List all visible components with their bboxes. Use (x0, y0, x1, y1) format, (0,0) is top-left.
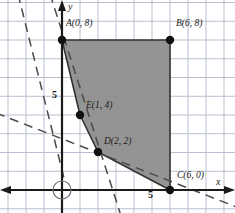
point-A-label: A(0, 8) (66, 18, 92, 28)
point-E-label: E(1, 4) (86, 100, 112, 110)
graph-figure: A(0, 8) B(6, 8) C(6, 0) D(2, 2) E(1, 4) … (0, 0, 235, 213)
x-axis-arrow-right (224, 186, 235, 194)
x-axis-arrow-left (0, 186, 11, 194)
point-B-label: B(6, 8) (176, 18, 202, 28)
point-B-dot (166, 36, 174, 44)
graph-canvas (0, 0, 235, 213)
x-axis-label: x (216, 176, 220, 187)
dash-steep-left-line (18, 0, 64, 178)
point-D-label: D(2, 2) (104, 136, 131, 146)
y-axis-label: y (68, 1, 72, 12)
point-A-dot (58, 36, 66, 44)
point-D-dot (94, 148, 102, 156)
point-C-label: C(6, 0) (177, 170, 204, 180)
point-E-dot (76, 111, 84, 119)
y-axis-arrow (58, 0, 66, 11)
y-axis-tick-5: 5 (52, 89, 57, 100)
point-C-dot (166, 186, 174, 194)
x-axis-tick-5: 5 (148, 189, 153, 200)
